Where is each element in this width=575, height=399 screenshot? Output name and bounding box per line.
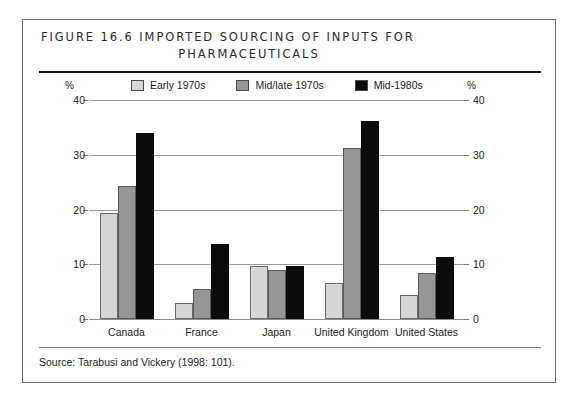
- legend-swatch-icon: [355, 80, 368, 91]
- bar-group: [100, 100, 154, 319]
- x-axis-category-label: Japan: [262, 326, 291, 338]
- legend-entry[interactable]: Mid-1980s: [355, 79, 423, 91]
- y-axis-tick-label: 0: [473, 314, 503, 325]
- bar[interactable]: [118, 186, 136, 319]
- y-axis-tick-label: 20: [55, 205, 85, 216]
- chart-legend: Early 1970sMid/late 1970sMid-1980s: [131, 79, 423, 91]
- bar[interactable]: [436, 257, 454, 319]
- x-axis-category-label: France: [185, 326, 218, 338]
- legend-entry[interactable]: Mid/late 1970s: [236, 79, 323, 91]
- bar[interactable]: [286, 266, 304, 319]
- bar[interactable]: [343, 148, 361, 319]
- y-axis-tick-label: 30: [55, 150, 85, 161]
- legend-swatch-icon: [236, 80, 249, 91]
- title-divider: [39, 71, 541, 73]
- legend-entry[interactable]: Early 1970s: [131, 79, 205, 91]
- bar-group: [400, 100, 454, 319]
- bar[interactable]: [193, 289, 211, 319]
- y-axis-unit-right: %: [467, 80, 476, 91]
- x-axis-category-label: United States: [395, 326, 458, 338]
- figure-frame: FIGURE 16.6 IMPORTED SOURCING OF INPUTS …: [22, 19, 556, 383]
- bar[interactable]: [250, 266, 268, 319]
- bar[interactable]: [136, 133, 154, 319]
- legend-label: Mid/late 1970s: [255, 79, 323, 91]
- bar[interactable]: [361, 121, 379, 319]
- y-axis-tick-label: 10: [473, 259, 503, 270]
- bar-group: [175, 100, 229, 319]
- bar[interactable]: [100, 213, 118, 319]
- x-axis-category-label: United Kingdom: [314, 326, 389, 338]
- bar[interactable]: [211, 244, 229, 319]
- y-axis-unit-left: %: [65, 80, 74, 91]
- y-tick-mark: [464, 264, 469, 265]
- y-tick-mark: [464, 210, 469, 211]
- bar[interactable]: [268, 270, 286, 319]
- y-axis-tick-label: 30: [473, 150, 503, 161]
- y-axis-tick-label: 10: [55, 259, 85, 270]
- legend-label: Early 1970s: [150, 79, 205, 91]
- figure-title: FIGURE 16.6 IMPORTED SOURCING OF INPUTS …: [39, 29, 519, 63]
- y-axis-tick-label: 0: [55, 314, 85, 325]
- plot-area: 010203040 010203040 CanadaFranceJapanUni…: [89, 100, 464, 319]
- legend-label: Mid-1980s: [374, 79, 423, 91]
- y-tick-mark: [464, 100, 469, 101]
- bar[interactable]: [400, 295, 418, 319]
- bar[interactable]: [418, 273, 436, 319]
- bar[interactable]: [175, 303, 193, 319]
- bar-group: [325, 100, 379, 319]
- legend-swatch-icon: [131, 80, 144, 91]
- y-axis-tick-label: 40: [473, 95, 503, 106]
- bar-series-container: [89, 100, 464, 319]
- bar[interactable]: [325, 283, 343, 319]
- y-tick-mark: [464, 319, 469, 320]
- figure-title-line-2: PHARMACEUTICALS: [39, 46, 519, 63]
- bar-group: [250, 100, 304, 319]
- x-axis-baseline: [89, 319, 464, 320]
- x-axis-category-label: Canada: [108, 326, 145, 338]
- figure-title-line-1: FIGURE 16.6 IMPORTED SOURCING OF INPUTS …: [39, 29, 519, 46]
- y-tick-mark: [464, 155, 469, 156]
- source-divider: [39, 347, 541, 348]
- y-axis-tick-label: 20: [473, 205, 503, 216]
- source-note: Source: Tarabusi and Vickery (1998: 101)…: [39, 356, 235, 368]
- y-axis-tick-label: 40: [55, 95, 85, 106]
